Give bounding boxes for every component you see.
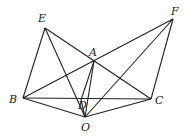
label-c: C	[155, 94, 163, 107]
segment-oc	[85, 99, 151, 117]
geometry-figure: E F A B C D O	[0, 0, 185, 139]
label-a: A	[89, 46, 97, 59]
segment-bo	[23, 98, 85, 117]
label-o: O	[81, 121, 90, 134]
figure-lines	[0, 0, 185, 139]
label-b: B	[9, 93, 17, 106]
segment-bc	[23, 98, 151, 99]
label-d: D	[78, 99, 87, 112]
label-e: E	[38, 12, 46, 25]
segment-bf	[23, 19, 173, 98]
label-f: F	[171, 5, 179, 18]
segment-eb	[23, 28, 45, 98]
